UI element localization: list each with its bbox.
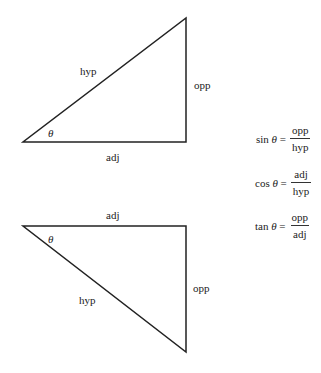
sin-eq: = xyxy=(280,133,286,145)
sin-angle: θ xyxy=(272,133,277,145)
tan-numerator: opp xyxy=(290,211,311,225)
bottom-opp-label: opp xyxy=(193,283,210,294)
tan-eq: = xyxy=(279,220,285,232)
sin-fn: sin xyxy=(256,133,269,145)
top-opp-label: opp xyxy=(194,80,211,91)
top-hyp-label: hyp xyxy=(80,66,97,77)
cos-fn: cos xyxy=(255,177,270,189)
tan-denominator: adj xyxy=(291,225,308,240)
cos-eq: = xyxy=(281,177,287,189)
top-adj-label: adj xyxy=(106,152,119,163)
cos-numerator: adj xyxy=(292,168,309,182)
sin-formula: sin θ = opphyp xyxy=(256,124,310,153)
bottom-theta-label: θ xyxy=(48,234,53,245)
tan-angle: θ xyxy=(271,220,276,232)
sin-denominator: hyp xyxy=(290,138,311,153)
top-right-triangle xyxy=(23,18,186,142)
top-theta-label: θ xyxy=(48,128,53,139)
tan-fn: tan xyxy=(255,220,268,232)
bottom-hyp-label: hyp xyxy=(79,295,96,306)
cos-angle: θ xyxy=(272,177,277,189)
sin-numerator: opp xyxy=(290,124,311,138)
cos-formula: cos θ = adjhyp xyxy=(255,168,311,197)
cos-denominator: hyp xyxy=(291,182,312,197)
bottom-adj-label: adj xyxy=(106,210,119,221)
tan-formula: tan θ = oppadj xyxy=(255,211,310,240)
